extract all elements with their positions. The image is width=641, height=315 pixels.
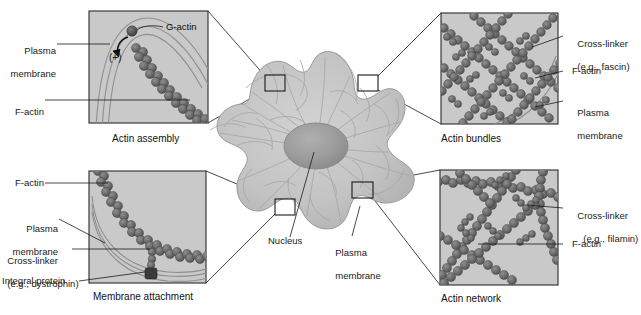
label-line: Cross-linker: [7, 255, 58, 266]
label-plus-end: (+): [109, 52, 122, 64]
label-integral-protein: Integral protein: [2, 275, 65, 287]
label-line: membrane: [577, 130, 622, 141]
label-f-actin-top-right: F-actin: [572, 65, 601, 77]
label-plasma-membrane-cell: Plasma membrane: [330, 235, 381, 281]
panel-actin-network[interactable]: [433, 165, 562, 287]
figure-canvas: [0, 0, 641, 315]
caption-actin-network: Actin network: [441, 293, 501, 304]
label-line: Cross-linker: [577, 210, 628, 221]
label-plasma-membrane-top-right: Plasma membrane: [572, 95, 623, 141]
label-nucleus: Nucleus: [268, 235, 302, 247]
caption-membrane-attachment: Membrane attachment: [93, 291, 193, 302]
caption-actin-bundles: Actin bundles: [441, 133, 501, 144]
integral-protein: [145, 268, 157, 279]
nucleus: [284, 123, 348, 169]
actin-cytoskeleton-figure: Plasma membrane F-actin G-actin (+) Acti…: [0, 0, 641, 315]
label-line: membrane: [11, 68, 56, 79]
cross-linker-dystrophin: [147, 248, 156, 269]
label-line: Plasma: [577, 107, 609, 118]
label-line: Plasma: [24, 45, 56, 56]
panel-actin-bundles[interactable]: [432, 10, 571, 136]
label-line: Plasma: [335, 247, 367, 258]
label-f-actin-bottom-left: F-actin: [2, 177, 44, 189]
cell-diagram: [210, 52, 414, 237]
label-f-actin-top-left: F-actin: [2, 94, 44, 117]
label-line: Cross-linker: [577, 38, 628, 49]
panel-membrane-attachment[interactable]: [89, 166, 232, 283]
label-plasma-membrane-top-left: Plasma membrane: [2, 33, 56, 79]
label-f-actin-bottom-right: F-actin: [572, 238, 601, 250]
caption-actin-assembly: Actin assembly: [112, 133, 179, 144]
g-actin-monomer: [127, 26, 137, 36]
label-line: F-actin: [15, 106, 44, 117]
label-line: membrane: [335, 270, 380, 281]
label-line: Plasma: [26, 223, 58, 234]
label-g-actin: G-actin: [166, 21, 197, 33]
